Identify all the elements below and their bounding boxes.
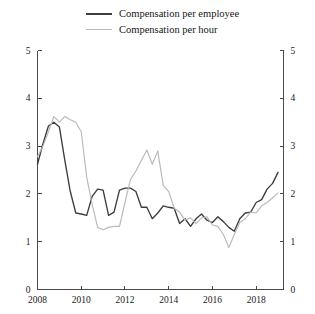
y-axis-left-tick-label: 2 (15, 189, 31, 199)
y-axis-left-tick-label: 0 (15, 285, 31, 295)
data-series-lines (38, 116, 279, 247)
series-line (38, 116, 279, 247)
x-axis-tick-label: 2008 (18, 295, 58, 305)
compensation-growth-chart: Compensation per employee Compensation p… (0, 0, 315, 314)
plot-svg (0, 0, 315, 314)
x-axis-tick-label: 2010 (61, 295, 101, 305)
x-axis-tick-label: 2018 (236, 295, 276, 305)
y-axis-right-tick-label: 1 (291, 237, 307, 247)
x-axis-tick-label: 2012 (105, 295, 145, 305)
series-line (38, 122, 279, 231)
y-axis-right-tick-label: 0 (291, 285, 307, 295)
y-axis-left-tick-label: 4 (15, 93, 31, 103)
y-axis-right-tick-label: 4 (291, 93, 307, 103)
y-axis-right-tick-label: 3 (291, 141, 307, 151)
y-axis-left-tick-label: 3 (15, 141, 31, 151)
x-axis-tick-label: 2014 (149, 295, 189, 305)
plot-area: 012345012345200820102012201420162018 (0, 0, 315, 314)
y-axis-left-tick-label: 5 (15, 46, 31, 56)
y-axis-right-tick-label: 2 (291, 189, 307, 199)
y-axis-right-tick-label: 5 (291, 46, 307, 56)
x-axis-tick-label: 2016 (192, 295, 232, 305)
y-axis-left-tick-label: 1 (15, 237, 31, 247)
